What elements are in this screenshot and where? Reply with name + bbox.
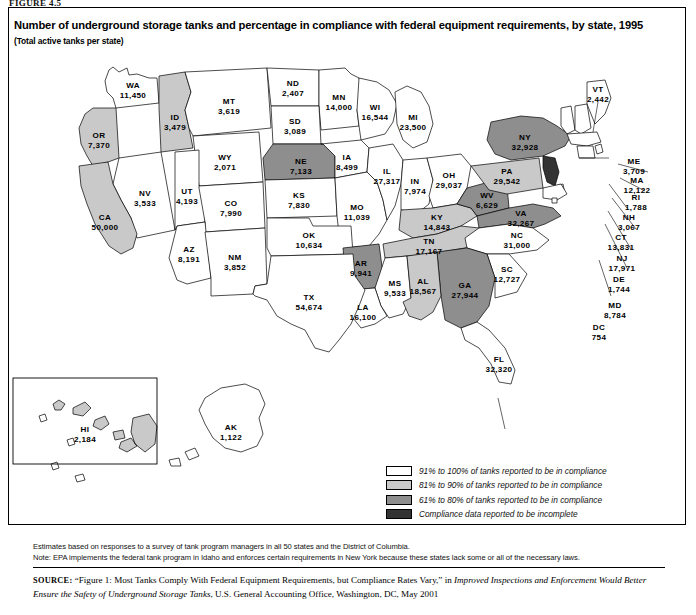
state-value-mn: 14,000 bbox=[326, 103, 353, 112]
state-label-nd: ND bbox=[287, 79, 299, 88]
state-value-oh: 29,037 bbox=[436, 181, 463, 190]
state-label-al: AL bbox=[417, 277, 429, 286]
source-divider bbox=[33, 567, 665, 568]
state-value-md: 8,784 bbox=[604, 311, 626, 320]
state-label-ny: NY bbox=[519, 133, 531, 142]
state-label-ok: OK bbox=[303, 231, 316, 240]
state-value-il: 27,317 bbox=[374, 177, 401, 186]
state-label-nm: NM bbox=[228, 253, 241, 262]
state-value-mi: 23,500 bbox=[400, 123, 427, 132]
state-value-wy: 2,071 bbox=[214, 163, 236, 172]
state-label-me: ME bbox=[628, 157, 641, 166]
state-label-pa: PA bbox=[501, 167, 512, 176]
figure-subtitle: (Total active tanks per state) bbox=[14, 36, 123, 46]
state-label-mn: MN bbox=[332, 93, 345, 102]
legend-swatch-incomplete bbox=[386, 509, 412, 519]
map-legend: 91% to 100% of tanks reported to be in c… bbox=[386, 464, 676, 522]
state-value-vt: 2,442 bbox=[587, 95, 609, 104]
state-value-ia: 8,499 bbox=[336, 163, 358, 172]
source-citation: SOURCE: “Figure 1: Most Tanks Comply Wit… bbox=[33, 574, 669, 601]
state-label-nc: NC bbox=[511, 231, 523, 240]
map-island-outline bbox=[185, 448, 199, 460]
state-shape-ct[interactable] bbox=[577, 146, 595, 158]
state-shape-dc[interactable] bbox=[552, 198, 557, 203]
state-value-ct: 13,831 bbox=[608, 243, 635, 252]
state-label-nj: NJ bbox=[616, 254, 627, 263]
state-value-sc: 12,727 bbox=[494, 275, 521, 284]
state-label-de: DE bbox=[613, 275, 625, 284]
state-label-or: OR bbox=[93, 131, 106, 140]
state-value-va: 32,267 bbox=[508, 219, 535, 228]
state-label-ky: KY bbox=[431, 213, 443, 222]
state-label-ma: MA bbox=[630, 176, 643, 185]
state-value-nj: 17,971 bbox=[609, 264, 636, 273]
state-value-nc: 31,000 bbox=[504, 241, 531, 250]
state-label-la: LA bbox=[357, 303, 369, 312]
state-label-ms: MS bbox=[389, 279, 402, 288]
state-value-in: 7,974 bbox=[404, 187, 426, 196]
state-shape-ma[interactable] bbox=[567, 132, 601, 146]
state-value-tx: 54,674 bbox=[296, 303, 323, 312]
legend-swatch-61-80 bbox=[386, 495, 412, 505]
state-value-me: 3,709 bbox=[623, 167, 645, 176]
state-value-nh: 3,067 bbox=[618, 223, 640, 232]
us-choropleth-map: WA11,450OR7,370ID3,479MT3,619ND2,407MN14… bbox=[9, 48, 669, 513]
state-label-ia: IA bbox=[343, 153, 352, 162]
state-label-ak: AK bbox=[225, 423, 237, 432]
map-island-outline bbox=[75, 474, 85, 482]
figure-title: Number of underground storage tanks and … bbox=[14, 18, 664, 32]
state-label-ga: GA bbox=[459, 281, 472, 290]
state-label-ca: CA bbox=[99, 213, 111, 222]
source-tail: , U.S. General Accounting Office, Washin… bbox=[210, 589, 438, 599]
state-shape-nj[interactable] bbox=[543, 156, 559, 186]
state-value-la: 16,100 bbox=[350, 313, 377, 322]
state-label-ut: UT bbox=[181, 187, 193, 196]
state-value-mt: 3,619 bbox=[218, 107, 240, 116]
note-epa: Note: EPA implements the federal tank pr… bbox=[33, 552, 673, 563]
state-label-il: IL bbox=[383, 167, 391, 176]
state-shape-ri[interactable] bbox=[595, 144, 603, 154]
state-label-az: AZ bbox=[183, 245, 195, 254]
state-value-ak: 1,122 bbox=[220, 433, 242, 442]
state-label-ri: RI bbox=[632, 193, 641, 202]
legend-item: 61% to 80% of tanks reported to be in co… bbox=[386, 493, 676, 506]
state-value-or: 7,370 bbox=[88, 141, 110, 150]
map-island-outline bbox=[51, 462, 59, 470]
state-value-wi: 16,544 bbox=[362, 113, 389, 122]
note-estimates: Estimates based on responses to a survey… bbox=[33, 541, 673, 552]
state-value-wa: 11,450 bbox=[120, 91, 147, 100]
state-value-ky: 14,843 bbox=[424, 223, 451, 232]
state-value-hi: 2,184 bbox=[74, 435, 96, 444]
state-value-tn: 17,167 bbox=[416, 247, 443, 256]
state-value-ny: 32,928 bbox=[512, 143, 539, 152]
figure-notes: Estimates based on responses to a survey… bbox=[33, 541, 673, 563]
state-label-ar: AR bbox=[355, 259, 367, 268]
state-value-ks: 7,830 bbox=[288, 201, 310, 210]
state-value-ut: 4,193 bbox=[176, 197, 198, 206]
state-value-mo: 11,039 bbox=[344, 213, 371, 222]
state-shape-vt[interactable] bbox=[561, 106, 575, 134]
state-label-ne: NE bbox=[295, 157, 307, 166]
state-value-az: 8,191 bbox=[178, 255, 200, 264]
state-value-nm: 3,852 bbox=[224, 263, 246, 272]
state-label-tx: TX bbox=[303, 293, 314, 302]
map-island-outline bbox=[39, 414, 47, 422]
state-shape-fl[interactable] bbox=[461, 322, 515, 384]
source-quoted-title: “Figure 1: Most Tanks Comply With Federa… bbox=[75, 575, 454, 585]
state-label-fl: FL bbox=[494, 355, 505, 364]
state-label-sc: SC bbox=[501, 265, 513, 274]
state-label-ks: KS bbox=[293, 191, 305, 200]
legend-label-61-80: 61% to 80% of tanks reported to be in co… bbox=[419, 495, 602, 505]
state-value-sd: 3,089 bbox=[284, 127, 306, 136]
state-value-ok: 10,634 bbox=[296, 241, 323, 250]
state-value-ca: 50,000 bbox=[92, 223, 119, 232]
state-value-ga: 27,944 bbox=[452, 291, 479, 300]
legend-item: 81% to 90% of tanks reported to be in co… bbox=[386, 479, 676, 492]
state-label-mo: MO bbox=[350, 203, 364, 212]
state-label-nh: NH bbox=[623, 213, 635, 222]
state-label-ct: CT bbox=[615, 233, 627, 242]
state-label-oh: OH bbox=[443, 171, 456, 180]
state-value-id: 3,479 bbox=[164, 123, 186, 132]
state-value-ms: 9,533 bbox=[384, 289, 406, 298]
state-value-fl: 32,320 bbox=[486, 365, 513, 374]
